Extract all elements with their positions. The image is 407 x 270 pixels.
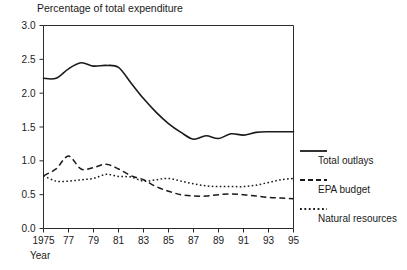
x-tick-label: 89 bbox=[213, 235, 225, 246]
y-tick-label: 1.5 bbox=[22, 122, 36, 133]
y-axis-tick-labels: 0.00.51.01.52.02.53.0 bbox=[22, 20, 36, 234]
series-line-natural-resources bbox=[44, 174, 294, 186]
x-axis-tick-labels: 197577798183858789919395 bbox=[32, 235, 299, 246]
chart-title: Percentage of total expenditure bbox=[37, 2, 183, 14]
x-tick-label: 1975 bbox=[32, 235, 55, 246]
x-tick-label: 83 bbox=[138, 235, 150, 246]
plot-frame bbox=[44, 26, 294, 229]
legend-label-natural-resources: Natural resources bbox=[318, 213, 397, 224]
x-tick-label: 79 bbox=[88, 235, 100, 246]
y-axis-tick-marks bbox=[40, 26, 44, 229]
series-line-total-outlays bbox=[44, 63, 294, 140]
x-tick-label: 85 bbox=[163, 235, 175, 246]
x-axis-tick-marks bbox=[44, 229, 294, 233]
series-group bbox=[44, 63, 294, 199]
y-tick-label: 0.0 bbox=[22, 223, 36, 234]
x-tick-label: 93 bbox=[263, 235, 275, 246]
x-tick-label: 95 bbox=[288, 235, 300, 246]
x-axis-label: Year bbox=[30, 250, 51, 261]
chart-figure: Percentage of total expenditure 0.00.51.… bbox=[0, 0, 407, 270]
chart-svg: Percentage of total expenditure 0.00.51.… bbox=[0, 0, 407, 270]
x-tick-label: 87 bbox=[188, 235, 200, 246]
x-tick-label: 77 bbox=[63, 235, 75, 246]
y-tick-label: 2.0 bbox=[22, 88, 36, 99]
y-tick-label: 3.0 bbox=[22, 20, 36, 31]
y-tick-label: 2.5 bbox=[22, 54, 36, 65]
x-tick-label: 91 bbox=[238, 235, 250, 246]
y-tick-label: 0.5 bbox=[22, 189, 36, 200]
legend-label-epa-budget: EPA budget bbox=[318, 184, 370, 195]
y-tick-label: 1.0 bbox=[22, 155, 36, 166]
x-tick-label: 81 bbox=[113, 235, 125, 246]
chart-legend: Total outlaysEPA budgetNatural resources bbox=[300, 151, 397, 224]
legend-label-total-outlays: Total outlays bbox=[318, 155, 374, 166]
series-line-epa-budget bbox=[44, 156, 294, 199]
